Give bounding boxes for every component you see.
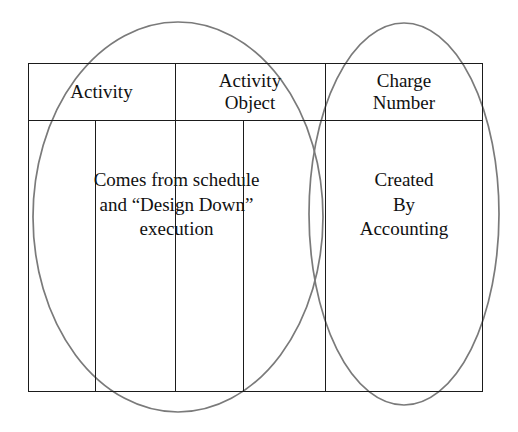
- body-column-divider-1: [95, 120, 96, 392]
- data-table: Activity Activity Object Charge Number C…: [28, 63, 483, 392]
- header-cell-activity-object: Activity Object: [175, 63, 325, 120]
- table-layer: Activity Activity Object Charge Number C…: [0, 0, 518, 432]
- body-column-divider-3: [243, 120, 244, 392]
- body-column-divider-2: [175, 120, 176, 392]
- diagram-canvas: Activity Activity Object Charge Number C…: [0, 0, 518, 432]
- header-body-divider: [28, 120, 483, 121]
- body-text-accounting-source: Created By Accounting: [325, 168, 483, 242]
- body-text-schedule-source: Comes from schedule and “Design Down” ex…: [28, 168, 325, 242]
- header-cell-activity: Activity: [28, 63, 175, 120]
- body-column-divider-4: [325, 120, 326, 392]
- header-cell-charge-number: Charge Number: [325, 63, 483, 120]
